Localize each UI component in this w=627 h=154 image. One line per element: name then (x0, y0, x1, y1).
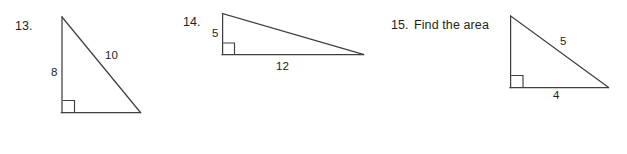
problem-15-figure (390, 0, 627, 120)
problem-13: 13. 8 10 (0, 0, 175, 154)
worksheet-page: 13. 8 10 14. (0, 0, 627, 154)
problem-14-label-horizontal: 12 (276, 60, 289, 73)
triangle-13-hypotenuse (62, 17, 141, 113)
problem-13-label-hypotenuse: 10 (105, 49, 118, 62)
problem-13-figure (0, 0, 175, 130)
triangle-15-hypotenuse (511, 16, 609, 88)
problem-14-figure (175, 0, 390, 90)
problem-14: 14. 5 12 (175, 0, 390, 154)
problem-13-label-vertical: 8 (51, 66, 57, 79)
triangle-13-right-angle-mark (63, 101, 75, 113)
problem-15-label-horizontal: 4 (553, 89, 559, 102)
triangle-15-right-angle-mark (511, 76, 523, 88)
problem-15: 15. Find the area 5 4 (390, 0, 627, 154)
problem-14-label-vertical: 5 (212, 27, 218, 40)
triangle-14-right-angle-mark (223, 43, 234, 54)
problem-15-label-hypotenuse: 5 (560, 35, 566, 48)
triangle-14-hypotenuse (223, 14, 364, 55)
